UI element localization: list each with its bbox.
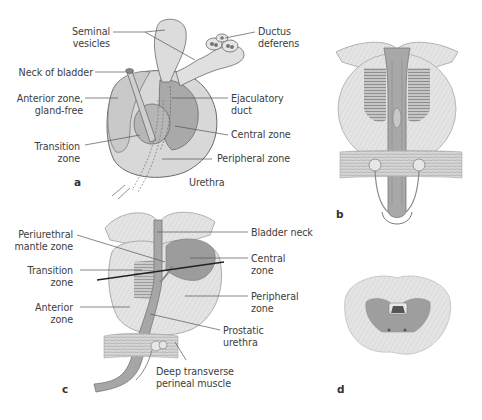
panel-d-drawing xyxy=(345,276,451,354)
prostate-zones-illustration xyxy=(0,0,482,420)
label-central-zone: Central zone xyxy=(231,129,291,141)
label-deep-transverse-perineal-muscle: Deep transverse perineal muscle xyxy=(156,366,234,389)
panel-letter-a: a xyxy=(74,176,81,188)
label-anterior-zone-gland-free: Anterior zone, gland-free xyxy=(5,93,83,116)
panel-letter-d: d xyxy=(337,383,345,395)
label-periurethral-mantle-zone: Periurethral mantle zone xyxy=(5,229,73,252)
label-prostatic-urethra: Prostatic urethra xyxy=(223,325,264,348)
label-peripheral-zone: Peripheral zone xyxy=(217,153,290,165)
label-ductus-deferens: Ductus deferens xyxy=(258,26,299,49)
label-central-zone-c: Central zone xyxy=(251,253,285,276)
label-bladder-neck: Bladder neck xyxy=(251,227,313,239)
label-peripheral-zone-c: Peripheral zone xyxy=(251,291,299,314)
panel-letter-c: c xyxy=(62,383,68,395)
panel-b-drawing xyxy=(336,42,462,224)
panel-letter-b: b xyxy=(336,208,344,220)
label-transition-zone: Transition zone xyxy=(20,141,80,164)
panel-a-drawing xyxy=(107,19,244,199)
label-neck-of-bladder: Neck of bladder xyxy=(10,67,93,79)
label-urethra: Urethra xyxy=(189,177,225,189)
label-seminal-vesicles: Seminal vesicles xyxy=(70,26,110,49)
label-anterior-zone-c: Anterior zone xyxy=(10,302,73,325)
label-transition-zone-c: Transition zone xyxy=(10,265,73,288)
label-ejaculatory-duct: Ejaculatory duct xyxy=(231,93,284,116)
